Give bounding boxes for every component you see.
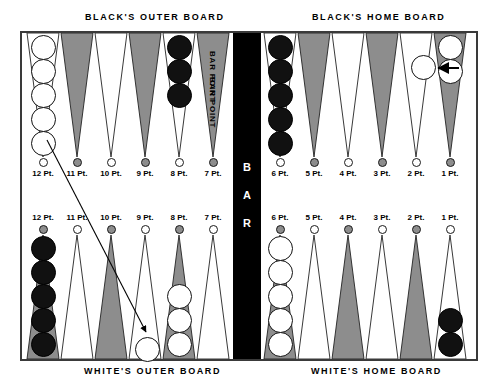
checker-black[interactable] — [438, 308, 463, 333]
point-tip-dot — [175, 225, 184, 234]
point-bottom-7[interactable] — [196, 235, 230, 359]
point-tip-dot — [446, 158, 455, 167]
board-inner: B A R 12 Pt.11 Pt.10 Pt.9 Pt.8 Pt.7 Pt.B… — [22, 33, 476, 359]
checker-white[interactable] — [268, 332, 293, 357]
checker-black[interactable] — [167, 59, 192, 84]
point-bottom-11[interactable] — [60, 235, 94, 359]
point-bottom-12[interactable] — [26, 235, 60, 359]
point-tip-dot — [107, 225, 116, 234]
point-top-4[interactable] — [331, 33, 365, 157]
point-bottom-3[interactable] — [365, 235, 399, 359]
point-top-12[interactable] — [26, 33, 60, 157]
checker-white[interactable] — [31, 35, 56, 60]
point-bottom-5[interactable] — [297, 235, 331, 359]
point-tip-dot — [209, 158, 218, 167]
point-tip-dot — [378, 158, 387, 167]
checker-white[interactable] — [268, 260, 293, 285]
checker-white[interactable] — [31, 59, 56, 84]
point-tip-dot — [344, 158, 353, 167]
bar-point-label: BAR POINT — [208, 77, 217, 128]
point-bottom-8[interactable] — [162, 235, 196, 359]
backgammon-board: B A R 12 Pt.11 Pt.10 Pt.9 Pt.8 Pt.7 Pt.B… — [20, 31, 478, 361]
ghost-checker-bottom-11pt — [135, 337, 160, 362]
checker-white[interactable] — [438, 59, 463, 84]
checker-black[interactable] — [167, 83, 192, 108]
checker-black[interactable] — [438, 332, 463, 357]
point-label-6: 6 Pt. — [268, 169, 292, 178]
point-tip-dot — [73, 225, 82, 234]
point-tip-dot — [446, 225, 455, 234]
checker-black[interactable] — [268, 35, 293, 60]
point-bottom-1[interactable] — [433, 235, 467, 359]
point-label-7: 7 Pt. — [201, 169, 225, 178]
checker-white[interactable] — [268, 236, 293, 261]
point-top-8[interactable] — [162, 33, 196, 157]
point-label-8: 8 Pt. — [167, 213, 191, 222]
point-label-2: 2 Pt. — [404, 169, 428, 178]
point-label-4: 4 Pt. — [336, 169, 360, 178]
point-tip-dot — [107, 158, 116, 167]
point-label-12: 12 Pt. — [31, 169, 55, 178]
point-tip-dot — [175, 158, 184, 167]
checker-black[interactable] — [31, 260, 56, 285]
checker-black[interactable] — [268, 131, 293, 156]
point-label-1: 1 Pt. — [438, 169, 462, 178]
checker-black[interactable] — [167, 35, 192, 60]
checker-white[interactable] — [31, 107, 56, 132]
point-bottom-6[interactable] — [263, 235, 297, 359]
point-label-6: 6 Pt. — [268, 213, 292, 222]
point-bottom-10[interactable] — [94, 235, 128, 359]
checker-white[interactable] — [268, 308, 293, 333]
point-tip-dot — [141, 158, 150, 167]
point-tip-dot — [276, 158, 285, 167]
point-label-7: 7 Pt. — [201, 213, 225, 222]
checker-black[interactable] — [31, 284, 56, 309]
bar-divider: B A R — [233, 33, 261, 359]
checker-white[interactable] — [31, 83, 56, 108]
point-top-1[interactable] — [433, 33, 467, 157]
checker-white[interactable] — [167, 332, 192, 357]
point-label-5: 5 Pt. — [302, 213, 326, 222]
caption-blacks-home-board: BLACK'S HOME BOARD — [312, 12, 445, 22]
point-tip-dot — [310, 225, 319, 234]
point-top-6[interactable] — [263, 33, 297, 157]
point-tip-dot — [276, 225, 285, 234]
point-top-5[interactable] — [297, 33, 331, 157]
checker-black[interactable] — [31, 332, 56, 357]
point-tip-dot — [73, 158, 82, 167]
checker-black[interactable] — [268, 59, 293, 84]
checker-white[interactable] — [268, 284, 293, 309]
point-top-3[interactable] — [365, 33, 399, 157]
checker-white[interactable] — [31, 131, 56, 156]
point-tip-dot — [344, 225, 353, 234]
point-top-9[interactable] — [128, 33, 162, 157]
point-bottom-4[interactable] — [331, 235, 365, 359]
point-tip-dot — [378, 225, 387, 234]
point-label-2: 2 Pt. — [404, 213, 428, 222]
point-top-10[interactable] — [94, 33, 128, 157]
point-tip-dot — [39, 225, 48, 234]
point-top-11[interactable] — [60, 33, 94, 157]
checker-black[interactable] — [31, 308, 56, 333]
point-tip-dot — [141, 225, 150, 234]
point-tip-dot — [39, 158, 48, 167]
point-label-10: 10 Pt. — [99, 169, 123, 178]
point-top-2[interactable] — [399, 33, 433, 157]
checker-white[interactable] — [167, 284, 192, 309]
checker-black[interactable] — [268, 83, 293, 108]
checker-black[interactable] — [268, 107, 293, 132]
point-label-5: 5 Pt. — [302, 169, 326, 178]
point-tip-dot — [412, 158, 421, 167]
caption-whites-home-board: WHITE'S HOME BOARD — [311, 366, 442, 376]
checker-white[interactable] — [438, 35, 463, 60]
point-label-9: 9 Pt. — [133, 213, 157, 222]
point-tip-dot — [310, 158, 319, 167]
point-label-11: 11 Pt. — [65, 213, 89, 222]
bar-label: B A R — [233, 33, 261, 359]
checker-white[interactable] — [167, 308, 192, 333]
point-label-8: 8 Pt. — [167, 169, 191, 178]
checker-black[interactable] — [31, 236, 56, 261]
point-tip-dot — [412, 225, 421, 234]
point-bottom-2[interactable] — [399, 235, 433, 359]
point-tip-dot — [209, 225, 218, 234]
